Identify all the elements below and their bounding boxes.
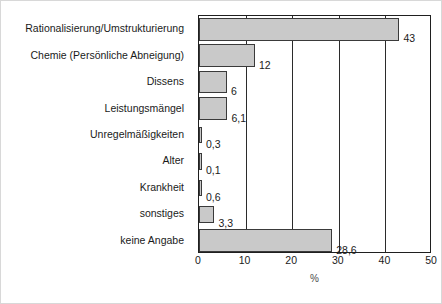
bar-value-label: 43 bbox=[403, 33, 415, 44]
bar-value-label: 0,6 bbox=[206, 192, 221, 203]
bar-value-label: 0,1 bbox=[206, 165, 221, 176]
bar bbox=[199, 44, 255, 67]
chart-figure: Rationalisierung/UmstrukturierungChemie … bbox=[0, 0, 442, 304]
bar-value-label: 6 bbox=[231, 86, 237, 97]
category-label: Rationalisierung/Umstrukturierung bbox=[25, 23, 184, 34]
category-axis-labels: Rationalisierung/UmstrukturierungChemie … bbox=[1, 15, 191, 253]
bar bbox=[199, 180, 202, 196]
category-label: Alter bbox=[162, 155, 184, 166]
bar-value-label: 12 bbox=[259, 60, 271, 71]
bar-value-label: 0,3 bbox=[206, 139, 221, 150]
x-tick-label: 0 bbox=[195, 255, 201, 266]
bar bbox=[199, 206, 214, 222]
x-axis-tick-labels: 01020304050 bbox=[198, 255, 431, 271]
gridline bbox=[292, 16, 293, 252]
bar bbox=[199, 18, 399, 41]
plot-area: 431266,10,30,10,63,328,6 bbox=[198, 15, 431, 253]
category-label: Krankheit bbox=[140, 182, 184, 193]
category-label: Chemie (Persönliche Abneigung) bbox=[30, 50, 184, 61]
bar bbox=[199, 229, 332, 252]
category-label: Dissens bbox=[147, 76, 184, 87]
category-label: Leistungsmängel bbox=[105, 103, 184, 114]
x-tick-label: 30 bbox=[332, 255, 344, 266]
bar bbox=[199, 71, 227, 94]
x-tick-label: 40 bbox=[379, 255, 391, 266]
x-tick-label: 50 bbox=[425, 255, 437, 266]
category-label: Unregelmäßigkeiten bbox=[90, 129, 184, 140]
category-label: sonstiges bbox=[140, 208, 184, 219]
x-tick-label: 20 bbox=[285, 255, 297, 266]
gridline bbox=[339, 16, 340, 252]
bar-value-label: 3,3 bbox=[218, 218, 233, 229]
gridline bbox=[385, 16, 386, 252]
bar bbox=[199, 127, 202, 143]
x-axis-title: % bbox=[198, 273, 431, 284]
bar-value-label: 6,1 bbox=[231, 113, 246, 124]
x-tick-label: 10 bbox=[239, 255, 251, 266]
bar bbox=[199, 97, 227, 120]
category-label: keine Angabe bbox=[120, 235, 184, 246]
bar bbox=[199, 153, 202, 169]
